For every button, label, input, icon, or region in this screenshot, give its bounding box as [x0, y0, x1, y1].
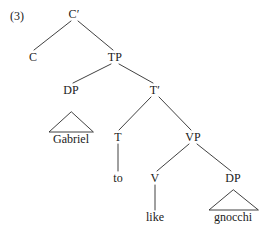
leaf-gnocchi: gnocchi [214, 211, 252, 223]
node-t-bar: T′ [150, 84, 160, 96]
leaf-gabriel: Gabriel [53, 133, 89, 145]
branch-cbar-c [34, 21, 71, 50]
branch-cbar-tp [78, 21, 113, 50]
node-t: T [114, 131, 122, 143]
node-c: C [29, 51, 37, 63]
branch-tp-tbar [119, 64, 153, 83]
syntax-tree-figure: (3) C′ C TP DP T′ T VP V DP Gabriel to l… [0, 0, 267, 234]
branch-vp-v [157, 144, 189, 171]
branch-tp-dp [73, 64, 111, 83]
leaf-to: to [113, 172, 122, 184]
node-vp: VP [185, 131, 201, 143]
node-tp: TP [108, 51, 122, 63]
node-c-bar: C′ [68, 8, 79, 20]
branch-tbar-vp [159, 97, 191, 130]
tree-branch-lines [0, 0, 267, 234]
leaf-like: like [146, 211, 164, 223]
node-dp-object: DP [225, 172, 241, 184]
node-v: V [151, 172, 160, 184]
node-dp-subject: DP [63, 84, 79, 96]
branch-vp-dp [197, 144, 231, 171]
triangle-gabriel [49, 112, 93, 132]
triangle-gnocchi [209, 190, 258, 210]
branch-tbar-t [119, 97, 151, 130]
